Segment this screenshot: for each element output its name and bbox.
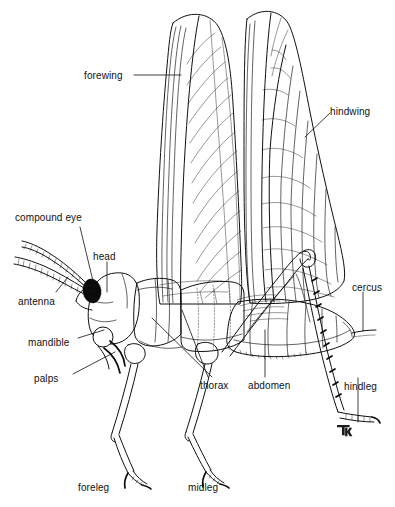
- label-hindwing: hindwing: [330, 106, 370, 117]
- midleg-shape: [185, 342, 229, 488]
- thorax-shape: [134, 278, 244, 352]
- wing-base-lines: [237, 295, 288, 321]
- insect-anatomy-figure: forewing hindwing compound eye head ante…: [0, 0, 395, 507]
- hindwing-shape: [244, 11, 345, 303]
- label-antenna: antenna: [18, 296, 55, 307]
- leader-hindwing: [305, 113, 330, 137]
- head-shape: [76, 273, 139, 373]
- label-thorax: thorax: [200, 380, 228, 391]
- label-palps: palps: [34, 373, 58, 384]
- label-compound-eye: compound eye: [15, 212, 82, 223]
- forewing-shape: [157, 14, 242, 304]
- label-midleg: midleg: [188, 482, 218, 493]
- label-hindleg: hindleg: [344, 381, 377, 392]
- leader-thorax-1: [182, 310, 208, 377]
- label-foreleg: foreleg: [78, 482, 109, 493]
- leader-compound-eye: [80, 227, 93, 281]
- leader-lines: [56, 75, 363, 422]
- label-abdomen: abdomen: [248, 380, 290, 391]
- leader-palps: [73, 352, 115, 374]
- leader-thorax-2: [152, 318, 212, 377]
- label-head: head: [93, 251, 116, 262]
- label-forewing: forewing: [84, 70, 123, 81]
- artist-signature: [337, 425, 352, 436]
- cercus-shape: [352, 330, 376, 333]
- label-mandible: mandible: [28, 337, 69, 348]
- antenna-shape: [14, 241, 87, 294]
- label-cercus: cercus: [352, 282, 382, 293]
- insect-drawing: [0, 0, 395, 507]
